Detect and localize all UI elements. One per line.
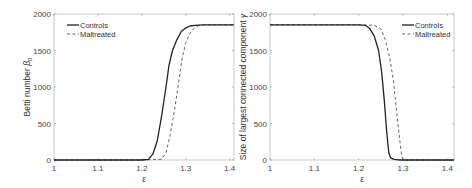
x-tick-label: 1.2 bbox=[353, 164, 365, 173]
x-tick-label: 1.4 bbox=[224, 164, 236, 173]
left-xlabel: ε bbox=[142, 174, 146, 184]
y-tick-label: 1500 bbox=[33, 47, 51, 56]
legend-maltreated-label: Maltreated bbox=[80, 30, 115, 39]
x-tick-label: 1.2 bbox=[136, 164, 148, 173]
y-tick-label: 1500 bbox=[249, 47, 267, 56]
right-ylabel: Size of largest connected component γ bbox=[238, 13, 248, 160]
right-xlabel: ε bbox=[360, 174, 364, 184]
left-series bbox=[54, 25, 234, 160]
left-legend: Controls Maltreated bbox=[67, 21, 115, 39]
legend-maltreated-label: Maltreated bbox=[415, 30, 450, 39]
y-tick-label: 1000 bbox=[33, 83, 51, 92]
legend-controls-label: Controls bbox=[80, 21, 108, 30]
x-tick-label: 1 bbox=[268, 164, 273, 173]
figure: 0500100015002000 11.11.21.31.4 Betti num… bbox=[0, 0, 472, 188]
y-tick-label: 1000 bbox=[249, 83, 267, 92]
left-y-ticks: 0500100015002000 bbox=[33, 10, 234, 165]
y-tick-label: 500 bbox=[38, 120, 52, 129]
series-maltreated-line bbox=[54, 25, 234, 160]
left-ylabel: Betti number β0 bbox=[22, 57, 33, 116]
series-maltreated-line bbox=[270, 25, 454, 160]
y-tick-label: 2000 bbox=[33, 10, 51, 19]
right-series bbox=[270, 25, 454, 160]
y-tick-label: 500 bbox=[254, 120, 268, 129]
x-tick-label: 1.3 bbox=[397, 164, 409, 173]
right-legend: Controls Maltreated bbox=[402, 21, 450, 39]
series-controls-line bbox=[270, 25, 454, 160]
y-tick-label: 2000 bbox=[249, 10, 267, 19]
x-tick-label: 1.1 bbox=[92, 164, 104, 173]
x-tick-label: 1.4 bbox=[442, 164, 454, 173]
x-tick-label: 1 bbox=[52, 164, 57, 173]
right-plot: 0500100015002000 11.11.21.31.4 Size of l… bbox=[238, 10, 454, 184]
left-plot: 0500100015002000 11.11.21.31.4 Betti num… bbox=[22, 10, 236, 184]
series-controls-line bbox=[54, 25, 234, 160]
x-tick-label: 1.1 bbox=[309, 164, 321, 173]
x-tick-label: 1.3 bbox=[180, 164, 192, 173]
legend-controls-label: Controls bbox=[415, 21, 443, 30]
